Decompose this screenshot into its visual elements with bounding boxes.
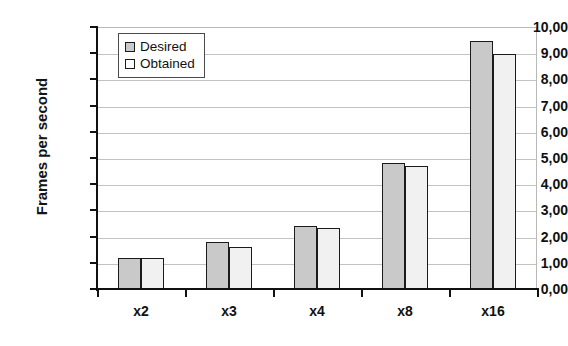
- y-axis-tick-mark: [90, 26, 97, 28]
- y-axis-tick-mark: [90, 157, 97, 159]
- y-axis-tick-label: 10,00: [482, 19, 568, 35]
- y-axis-tick-label: 4,00: [482, 176, 568, 192]
- x-axis-tick-mark: [537, 290, 539, 297]
- x-axis-tick-label-x16: x16: [481, 303, 504, 319]
- x-axis-tick-mark: [273, 290, 275, 297]
- bar-chart: Frames per second 0,001,002,003,004,005,…: [0, 0, 568, 346]
- x-axis-tick-mark: [97, 290, 99, 297]
- y-axis-tick-mark: [90, 78, 97, 80]
- x-axis-line: [96, 288, 539, 290]
- y-axis-tick-mark: [90, 288, 97, 290]
- y-axis-tick-label: 8,00: [482, 71, 568, 87]
- y-axis-tick-label: 2,00: [482, 229, 568, 245]
- legend-label-obtained: Obtained: [140, 57, 195, 71]
- y-axis-tick-mark: [90, 236, 97, 238]
- y-axis-tick-label: 9,00: [482, 45, 568, 61]
- bar-obtained-x8: [405, 166, 428, 289]
- legend-swatch-obtained-icon: [125, 59, 135, 69]
- y-axis-tick-label: 1,00: [482, 255, 568, 271]
- y-axis-tick-mark: [90, 183, 97, 185]
- y-axis-tick-label: 0,00: [482, 281, 568, 297]
- bar-obtained-x4: [317, 228, 340, 289]
- legend-item-desired: Desired: [125, 39, 195, 55]
- bar-desired-x3: [206, 242, 229, 289]
- y-axis-tick-label: 5,00: [482, 150, 568, 166]
- y-axis-tick-mark: [90, 209, 97, 211]
- x-axis-tick-label-x4: x4: [309, 303, 325, 319]
- bar-obtained-x3: [229, 247, 252, 289]
- x-axis-tick-mark: [449, 290, 451, 297]
- y-axis-tick-label: 7,00: [482, 98, 568, 114]
- y-axis-title: Frames per second: [33, 22, 50, 272]
- legend-item-obtained: Obtained: [125, 56, 195, 72]
- y-axis-tick-label: 3,00: [482, 202, 568, 218]
- bar-obtained-x2: [141, 258, 164, 289]
- x-axis-tick-label-x3: x3: [221, 303, 237, 319]
- y-axis-tick-mark: [90, 262, 97, 264]
- chart-legend: Desired Obtained: [118, 33, 205, 78]
- y-axis-tick-mark: [90, 131, 97, 133]
- bar-desired-x4: [294, 226, 317, 289]
- legend-swatch-desired-icon: [125, 42, 135, 52]
- y-axis-tick-mark: [90, 105, 97, 107]
- legend-label-desired: Desired: [140, 40, 187, 54]
- bar-obtained-x16: [493, 54, 516, 289]
- x-axis-tick-label-x8: x8: [397, 303, 413, 319]
- bar-desired-x2: [118, 258, 141, 289]
- bar-desired-x8: [382, 163, 405, 289]
- y-axis-tick-label: 6,00: [482, 124, 568, 140]
- y-axis-tick-mark: [90, 52, 97, 54]
- x-axis-tick-mark: [361, 290, 363, 297]
- x-axis-tick-label-x2: x2: [133, 303, 149, 319]
- x-axis-tick-mark: [185, 290, 187, 297]
